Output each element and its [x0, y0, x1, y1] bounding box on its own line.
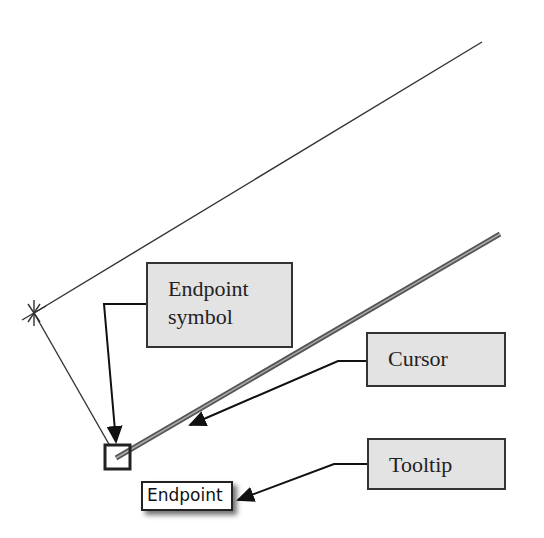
callout-endpoint-symbol-line2: symbol [168, 304, 233, 330]
snap-x-icon [22, 300, 46, 326]
construction-line [34, 313, 110, 446]
callout-endpoint-symbol: Endpoint symbol [146, 262, 293, 348]
callout-cursor-label: Cursor [388, 346, 448, 372]
endpoint-tooltip: Endpoint [141, 481, 233, 511]
callout-tooltip-label: Tooltip [389, 452, 452, 478]
callout-cursor: Cursor [366, 332, 506, 387]
endpoint-symbol-leader [104, 304, 146, 442]
cursor-leader [190, 361, 366, 425]
callout-endpoint-symbol-line1: Endpoint [168, 276, 249, 302]
callout-tooltip: Tooltip [367, 438, 506, 490]
tooltip-leader [238, 464, 367, 500]
